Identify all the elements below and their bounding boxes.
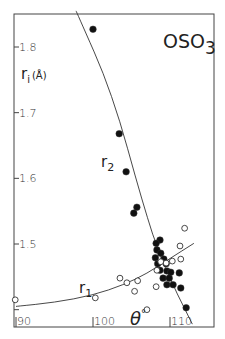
point-r2-2 — [123, 168, 130, 175]
series-label-r2: r2 — [101, 153, 114, 174]
point-r2-4 — [131, 210, 138, 217]
y-axis-label-subscript: i — [27, 74, 30, 85]
x-tick-label-0: 90 — [17, 315, 31, 328]
point-r2-9 — [152, 255, 159, 262]
point-r1-7 — [153, 284, 159, 290]
point-r1-8 — [154, 267, 160, 273]
point-r1-9 — [158, 259, 164, 265]
y-axis-label: ri(Å) — [21, 65, 47, 85]
point-r1-1 — [92, 295, 98, 301]
point-r2-6 — [153, 240, 160, 247]
point-r2-18 — [176, 270, 183, 277]
point-r2-22 — [183, 304, 190, 311]
point-r1-13 — [177, 243, 183, 249]
point-r1-10 — [163, 260, 169, 266]
chart: 1.81.71.61.5 90100110 OSO3 ri(Å) r2 r1 θ… — [0, 0, 225, 339]
x-axis-label: θ° — [130, 308, 146, 329]
fit-curve-r1 — [16, 243, 194, 306]
point-r1-11 — [169, 258, 175, 264]
series-label-r1: r1 — [79, 279, 92, 300]
fit-curve-r2 — [76, 11, 192, 324]
x-axis-ticks: 90100110 — [16, 315, 192, 328]
point-r2-15 — [167, 269, 174, 276]
point-r1-4 — [135, 278, 141, 284]
point-r2-16 — [160, 275, 167, 282]
x-tick-label-1: 100 — [94, 315, 115, 328]
point-r2-1 — [116, 130, 123, 137]
point-r2-3 — [134, 204, 141, 211]
chart-title-main: OSO — [163, 30, 205, 52]
point-r2-8 — [157, 250, 164, 257]
point-r1-2 — [117, 275, 123, 281]
y-tick-label-0: 1.8 — [19, 41, 37, 54]
point-r1-3 — [124, 280, 130, 286]
point-r1-0 — [12, 297, 18, 303]
point-r1-5 — [132, 288, 138, 294]
series-label-r1-subscript: 1 — [85, 287, 92, 300]
x-axis-label-main: θ — [130, 308, 141, 329]
chart-title: OSO3 — [163, 30, 216, 58]
y-tick-label-3: 1.5 — [19, 238, 37, 251]
point-r2-20 — [170, 281, 177, 288]
point-r1-14 — [182, 225, 188, 231]
point-r2-17 — [166, 275, 173, 282]
point-r2-0 — [90, 26, 97, 33]
chart-title-subscript: 3 — [205, 38, 216, 58]
y-axis-label-unit: (Å) — [32, 69, 47, 81]
y-tick-label-1: 1.7 — [19, 107, 37, 120]
y-tick-label-2: 1.6 — [19, 172, 37, 185]
point-r2-19 — [164, 281, 171, 288]
series-label-r2-subscript: 2 — [107, 161, 114, 174]
point-r2-21 — [177, 285, 184, 292]
point-r1-12 — [178, 256, 184, 262]
x-axis-label-degree: ° — [141, 308, 146, 319]
